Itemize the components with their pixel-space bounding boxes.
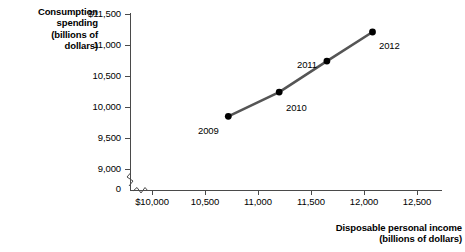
consumption-function-chart: Consumption spending (billions of dollar… — [0, 0, 465, 252]
data-point-2009 — [225, 113, 232, 120]
data-point-label-2012: 2012 — [379, 41, 400, 51]
data-point-label-2011: 2011 — [297, 60, 317, 70]
data-point-2012 — [369, 29, 376, 36]
data-point-2010 — [276, 89, 283, 96]
data-point-label-2010: 2010 — [286, 103, 307, 113]
consumption-function-series — [0, 0, 465, 252]
data-point-label-2009: 2009 — [198, 126, 219, 136]
data-point-2011 — [324, 58, 331, 65]
